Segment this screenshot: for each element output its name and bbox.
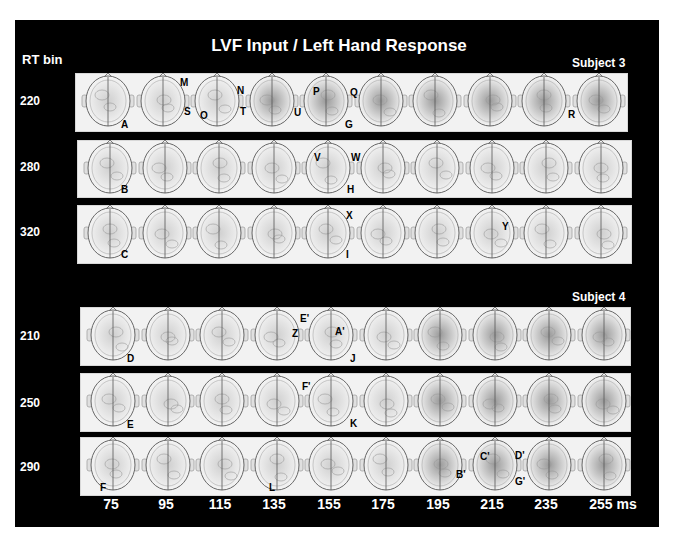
topomap-head [462,73,518,129]
topomap-head [412,437,468,493]
annotation-A-prime: A' [335,326,345,337]
rt-bin-s4-1: 210 [20,329,60,343]
annotation-S: S [184,106,191,117]
topomap-head [355,205,411,261]
topomap-head [407,73,463,129]
annotation-V: V [314,152,321,163]
topomap-head [191,140,247,196]
annotation-G: G [345,119,353,130]
annotation-A: A [121,119,128,130]
annotation-C: C [121,249,128,260]
topomap-head [576,307,632,363]
time-label-95: 95 [141,496,191,512]
rt-bin-s4-3: 290 [20,460,60,474]
topomap-head [358,373,414,429]
annotation-B-prime: B' [456,469,466,480]
rt-bin-s4-2: 250 [20,396,60,410]
annotation-R: R [568,109,575,120]
topomap-head [464,140,520,196]
annotation-W: W [351,152,360,163]
topomap-head [516,73,572,129]
topomap-head [189,73,245,129]
annotation-E-prime: E' [300,313,309,324]
topomap-head [571,73,627,129]
time-label-255: 255 ms [577,496,649,512]
annotation-T: T [240,106,246,117]
topomap-head [521,373,577,429]
annotation-J: J [350,353,356,364]
topomap-head [194,307,250,363]
topomap-head [409,140,465,196]
topomap-head [194,437,250,493]
annotation-C-prime: C' [480,451,490,462]
annotation-Z: Z [292,328,298,339]
rt-bin-s3-1: 220 [20,94,60,108]
topomap-head [191,205,247,261]
annotation-Y: Y [502,221,509,232]
topomap-head [358,437,414,493]
topomap-head [412,307,468,363]
annotation-U: U [294,107,301,118]
topomap-head [358,307,414,363]
topomap-head [140,437,196,493]
topomap-head [246,140,302,196]
annotation-O: O [200,110,208,121]
time-label-155: 155 [304,496,354,512]
topomap-head [249,437,305,493]
annotation-X: X [346,210,353,221]
topomap-head [137,140,193,196]
topomap-head [521,437,577,493]
time-label-135: 135 [249,496,299,512]
time-label-195: 195 [413,496,463,512]
topomap-head [249,373,305,429]
annotation-D-prime: D' [515,450,525,461]
time-label-75: 75 [86,496,136,512]
topomap-head [518,205,574,261]
time-label-115: 115 [195,496,245,512]
topomap-head [467,307,523,363]
annotation-E: E [127,419,134,430]
topomap-head [246,205,302,261]
topomap-head [518,140,574,196]
annotation-P: P [313,86,320,97]
topomap-head [576,373,632,429]
subject-4-label: Subject 4 [572,290,625,304]
topomap-head [409,205,465,261]
annotation-B: B [121,184,128,195]
topomap-head [355,140,411,196]
figure-title: LVF Input / Left Hand Response [0,36,678,56]
time-label-175: 175 [358,496,408,512]
annotation-Q: Q [350,87,358,98]
annotation-N: N [237,85,244,96]
annotation-F: F [100,482,106,493]
rt-bin-s3-2: 280 [20,160,60,174]
annotation-M: M [180,77,188,88]
topomap-head [82,140,138,196]
topomap-head [194,373,250,429]
topomap-head [82,205,138,261]
time-label-235: 235 [521,496,571,512]
annotation-L: L [269,482,275,493]
annotation-I: I [346,249,349,260]
topomap-head [412,373,468,429]
topomap-head [464,205,520,261]
topomap-head [573,140,629,196]
topomap-head [140,307,196,363]
topomap-head [140,373,196,429]
topomap-head [85,437,141,493]
annotation-G-prime: G' [515,476,525,487]
topomap-head [576,437,632,493]
rt-bin-label: RT bin [22,52,62,67]
annotation-H: H [347,184,354,195]
annotation-D: D [127,353,134,364]
annotation-F-prime: F' [302,381,311,392]
topomap-head [521,307,577,363]
topomap-head [467,373,523,429]
time-label-215: 215 [467,496,517,512]
topomap-head [244,73,300,129]
topomap-head [303,437,359,493]
topomap-head [353,73,409,129]
subject-3-label: Subject 3 [572,56,625,70]
annotation-K: K [350,418,357,429]
rt-bin-s3-3: 320 [20,225,60,239]
